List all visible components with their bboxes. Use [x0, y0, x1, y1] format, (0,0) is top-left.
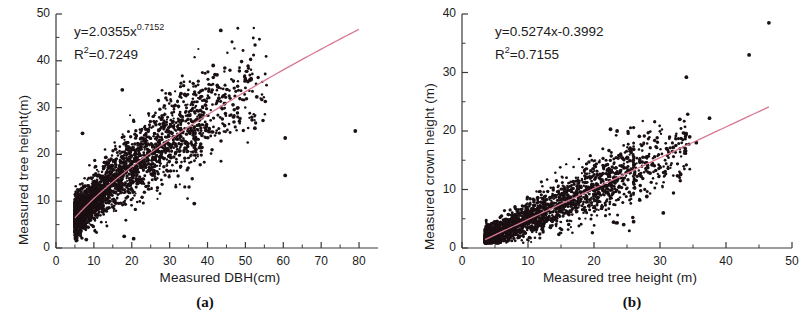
x-tick-label: 10 — [514, 254, 542, 268]
x-tick-label: 50 — [778, 254, 802, 268]
y-tick-label: 20 — [24, 146, 50, 160]
x-tick-label: 20 — [118, 254, 146, 268]
x-tick-label: 60 — [269, 254, 297, 268]
panel-a-equation-line: y=2.0355x0.7152 — [74, 18, 164, 41]
panel-b-equation-annotation: y=0.5274x-0.3992 R2=0.7155 — [495, 18, 603, 63]
x-tick-label: 40 — [194, 254, 222, 268]
x-tick-label: 0 — [448, 254, 476, 268]
panel-a-caption: (a) — [175, 294, 235, 311]
x-tick-label: 50 — [231, 254, 259, 268]
x-tick-label: 30 — [156, 254, 184, 268]
y-tick-label: 10 — [24, 193, 50, 207]
x-tick-label: 30 — [646, 254, 674, 268]
panel-b-r2-value: =0.7155 — [510, 46, 559, 61]
x-tick-label: 70 — [307, 254, 335, 268]
panel-b-r2-prefix: R — [495, 46, 505, 61]
panel-a-y-axis-title: Measured tree height(m) — [16, 95, 31, 245]
panel-b-y-axis-title: Measured crown height (m) — [422, 83, 437, 250]
panel-a-equation-text: y=2.0355x — [74, 24, 137, 39]
y-tick-label: 30 — [430, 65, 456, 79]
x-tick-label: 20 — [580, 254, 608, 268]
panel-a: y=2.0355x0.7152 R2=0.7249 Measured DBH(c… — [0, 0, 400, 320]
panel-a-equation-annotation: y=2.0355x0.7152 R2=0.7249 — [74, 18, 164, 63]
x-tick-label: 10 — [80, 254, 108, 268]
regression-fit-line — [485, 107, 769, 240]
panel-a-r2-prefix: R — [74, 46, 84, 61]
y-tick-label: 40 — [430, 6, 456, 20]
y-tick-label: 50 — [24, 6, 50, 20]
figure-container: y=2.0355x0.7152 R2=0.7249 Measured DBH(c… — [0, 0, 802, 320]
panel-a-equation-exponent: 0.7152 — [137, 22, 165, 32]
y-tick-label: 40 — [24, 53, 50, 67]
y-tick-label: 30 — [24, 100, 50, 114]
panel-b: y=0.5274x-0.3992 R2=0.7155 Measured tree… — [400, 0, 802, 320]
panel-a-r2-line: R2=0.7249 — [74, 41, 164, 64]
x-tick-label: 40 — [712, 254, 740, 268]
panel-a-r2-value: =0.7249 — [89, 46, 138, 61]
panel-b-r2-line: R2=0.7155 — [495, 41, 603, 64]
panel-b-equation-text: y=0.5274x-0.3992 — [495, 24, 603, 39]
x-tick-label: 0 — [42, 254, 70, 268]
panel-b-equation-line: y=0.5274x-0.3992 — [495, 18, 603, 41]
panel-b-x-axis-title: Measured tree height (m) — [455, 270, 785, 285]
x-tick-label: 80 — [345, 254, 373, 268]
scatter-points — [483, 112, 691, 244]
y-tick-label: 0 — [430, 240, 456, 254]
outlier-points — [609, 21, 771, 227]
y-tick-label: 10 — [430, 182, 456, 196]
y-tick-label: 0 — [24, 240, 50, 254]
y-tick-label: 20 — [430, 123, 456, 137]
panel-a-x-axis-title: Measured DBH(cm) — [60, 270, 380, 285]
panel-b-caption: (b) — [602, 294, 662, 311]
